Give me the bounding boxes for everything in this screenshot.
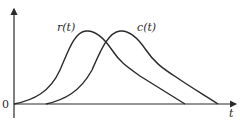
origin-label: 0: [2, 98, 9, 111]
r-t-label: r(t): [57, 21, 75, 34]
r-t-curve: [14, 31, 185, 104]
c-t-label: c(t): [137, 21, 156, 34]
c-t-curve: [46, 31, 218, 104]
diagram-canvas: r(t) c(t) 0 t: [0, 0, 240, 134]
x-axis-label: t: [229, 107, 234, 120]
